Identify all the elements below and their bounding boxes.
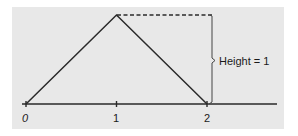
height-label: Height = 1 [219, 55, 269, 67]
height-bracket [209, 15, 215, 104]
tick-label-1: 1 [113, 112, 119, 124]
triangle-diagram: 0 1 2 Height = 1 [0, 0, 298, 136]
tick-label-0: 0 [22, 112, 29, 124]
tick-label-2: 2 [204, 112, 210, 124]
triangle-outline [26, 15, 207, 104]
